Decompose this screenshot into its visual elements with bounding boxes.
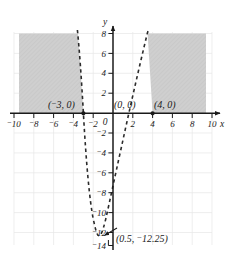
left-root-label: (⁻3, 0) [48, 99, 76, 111]
y-tick-label: ⁻4 [97, 148, 107, 158]
x-tick-label: 4 [150, 119, 155, 129]
x-tick-label: ⁻6 [49, 119, 59, 129]
coordinate-plane-svg: ⁻10 ⁻8 ⁻6 ⁻4 ⁻2 2 4 6 8 10 8 6 4 2 ⁻2 ⁻4… [0, 0, 231, 256]
y-tick-label: 2 [102, 88, 107, 98]
right-root-marker [151, 111, 155, 115]
point-annotations: (⁻3, 0) (0, 0) (4, 0) (0.5, ⁻12.25) [48, 99, 176, 245]
x-tick-label: ⁻4 [69, 119, 79, 129]
y-tick-label: 4 [102, 68, 107, 78]
y-tick-label: ⁻14 [92, 241, 106, 251]
x-tick-label: 8 [190, 119, 195, 129]
y-tick-label: ⁻6 [97, 168, 107, 178]
y-tick-label: ⁻12 [92, 228, 106, 238]
x-axis-label: x [219, 119, 225, 129]
y-tick-labels: 8 6 4 2 ⁻2 ⁻4 ⁻6 ⁻8 ⁻10 ⁻12 ⁻14 [92, 29, 106, 251]
y-tick-label: ⁻2 [97, 128, 107, 138]
y-tick-label: 8 [102, 29, 107, 39]
x-tick-labels: ⁻10 ⁻8 ⁻6 ⁻4 ⁻2 2 4 6 8 10 [7, 119, 217, 129]
x-tick-label: 2 [131, 119, 136, 129]
left-root-marker [81, 111, 85, 115]
y-tick-label: ⁻8 [97, 188, 107, 198]
vertex-label: (0.5, ⁻12.25) [116, 233, 169, 245]
origin-point-label: (0, 0) [114, 99, 136, 111]
y-axis-label: y [102, 17, 108, 27]
x-tick-label: 10 [208, 119, 218, 129]
x-tick-label: ⁻10 [7, 119, 21, 129]
origin-label: 0 [103, 117, 108, 127]
figure-canvas: ⁻10 ⁻8 ⁻6 ⁻4 ⁻2 2 4 6 8 10 8 6 4 2 ⁻2 ⁻4… [0, 0, 231, 256]
x-tick-label: 6 [170, 119, 175, 129]
y-tick-label: ⁻10 [92, 208, 106, 218]
x-tick-label: ⁻8 [29, 119, 39, 129]
y-tick-label: 6 [102, 49, 107, 59]
right-root-label: (4, 0) [154, 99, 176, 111]
